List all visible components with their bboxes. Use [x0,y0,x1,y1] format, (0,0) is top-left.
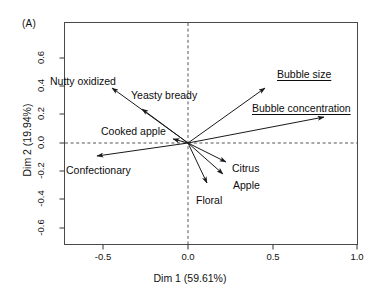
xtick-label-2: 0.5 [253,251,293,262]
vector-apple [188,143,223,174]
vector-floral [188,143,207,183]
vector-confectionary [97,143,188,156]
xtick-label-3: 1.0 [337,251,377,262]
vector-label-bubble-size: Bubble size [277,69,331,80]
vector-citrus [188,143,226,162]
vector-label-floral: Floral [196,195,222,206]
x-axis-title: Dim 1 (59.61%) [0,272,380,284]
vector-label-citrus: Citrus [232,163,259,174]
vector-label-nutty-oxidized: Nutty oxidized [50,76,116,87]
vector-label-confectionary: Confectionary [66,165,131,176]
vector-label-cooked-apple: Cooked apple [101,126,166,137]
xtick-label-1: 0.0 [168,251,208,262]
x-axis-ticks [103,245,357,250]
panel-label: (A) [22,18,36,29]
xtick-label-0: -0.5 [83,251,123,262]
vector-label-yeasty-bready: Yeasty bready [131,90,197,101]
vector-bubble-size [188,88,265,143]
vector-label-bubble-concentration: Bubble concentration [252,103,351,114]
pca-biplot-figure: (A) [0,0,380,297]
vector-bubble-concentration [188,117,324,143]
vector-label-apple: Apple [233,180,260,191]
y-axis-title: Dim 2 (19.94%) [21,60,33,220]
ytick-label-6: -0.6 [35,208,46,248]
